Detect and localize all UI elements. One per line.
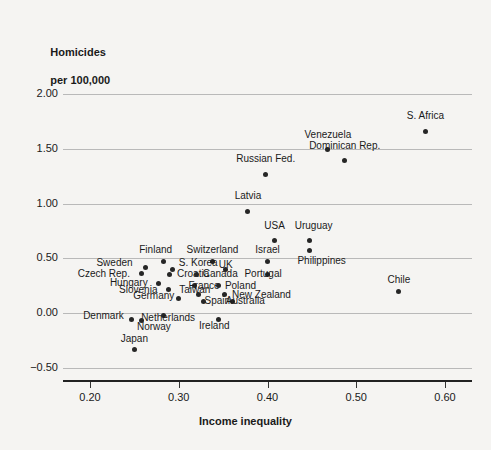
gridline: [63, 149, 472, 150]
x-axis-title: Income inequality: [0, 415, 491, 427]
x-tick-mark: [90, 382, 91, 388]
gridline: [63, 368, 472, 369]
y-tick-label: 1.50: [18, 142, 58, 154]
data-point[interactable]: [216, 283, 221, 288]
data-point[interactable]: [143, 265, 148, 270]
x-tick-mark: [268, 382, 269, 388]
data-point-label: S. Korea: [179, 258, 218, 268]
data-point-label: Portugal: [244, 269, 281, 279]
data-point-label: Taiwan: [179, 285, 210, 295]
data-point[interactable]: [272, 238, 277, 243]
data-point-label: Israel: [255, 245, 279, 255]
data-point-label: Australia: [226, 296, 265, 306]
data-point-label: Russian Fed.: [236, 154, 295, 164]
y-tick-label: 0.00: [18, 306, 58, 318]
y-tick-label: 0.50: [18, 251, 58, 263]
x-tick-label: 0.20: [65, 391, 115, 403]
data-point-label: Canada: [203, 269, 238, 279]
data-point-label: Switzerland: [187, 245, 239, 255]
data-point[interactable]: [194, 272, 199, 277]
data-point[interactable]: [396, 289, 401, 294]
y-tick-label: 1.00: [18, 197, 58, 209]
x-tick-label: 0.50: [331, 391, 381, 403]
data-point-label: Finland: [139, 245, 172, 255]
data-point-label: Chile: [387, 275, 410, 285]
y-axis-title-line1: Homicides: [50, 46, 106, 58]
data-point-label: Venezuela: [304, 130, 351, 140]
gridline: [63, 313, 472, 314]
data-point-label: Norway: [137, 322, 171, 332]
x-tick-label: 0.30: [154, 391, 204, 403]
data-point-label: Philippines: [297, 256, 345, 266]
data-point[interactable]: [245, 209, 250, 214]
data-point[interactable]: [342, 158, 347, 163]
data-point-label: Uruguay: [295, 221, 333, 231]
scatter-chart: Homicides per 100,000 2.001.501.000.500.…: [0, 0, 491, 450]
gridline: [63, 94, 472, 95]
data-point[interactable]: [423, 129, 428, 134]
data-point-label: Dominican Rep.: [309, 141, 380, 151]
data-point-label: Ireland: [199, 321, 230, 331]
x-tick-label: 0.40: [243, 391, 293, 403]
data-point[interactable]: [170, 267, 175, 272]
data-point[interactable]: [139, 271, 144, 276]
data-point[interactable]: [129, 317, 134, 322]
y-tick-label: 2.00: [18, 87, 58, 99]
data-point[interactable]: [176, 296, 181, 301]
data-point[interactable]: [265, 259, 270, 264]
x-tick-mark: [179, 382, 180, 388]
data-point-label: Germany: [133, 291, 174, 301]
data-point-label: UK: [219, 260, 233, 270]
gridline: [63, 204, 472, 205]
data-point[interactable]: [132, 347, 137, 352]
data-point[interactable]: [307, 238, 312, 243]
data-point-label: Denmark: [83, 311, 124, 321]
data-point-label: USA: [264, 221, 285, 231]
data-point[interactable]: [263, 172, 268, 177]
y-tick-label: −0.50: [18, 361, 58, 373]
x-tick-mark: [445, 382, 446, 388]
data-point-label: Latvia: [235, 191, 262, 201]
x-tick-mark: [356, 382, 357, 388]
data-point[interactable]: [167, 272, 172, 277]
data-point[interactable]: [161, 259, 166, 264]
data-point-label: S. Africa: [407, 111, 444, 121]
data-point-label: Japan: [121, 334, 148, 344]
y-axis-title-line2: per 100,000: [50, 74, 110, 86]
x-tick-label: 0.60: [420, 391, 470, 403]
data-point-label: Sweden: [96, 258, 132, 268]
data-point[interactable]: [307, 248, 312, 253]
